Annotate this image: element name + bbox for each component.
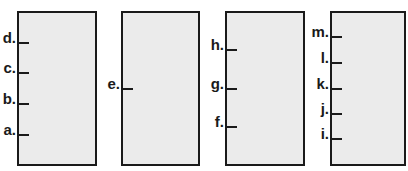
tick-label: j. (309, 101, 329, 116)
tick-mark (226, 126, 237, 128)
tick-label: b. (0, 91, 16, 106)
tick-label: k. (309, 76, 329, 91)
tick-label: h. (204, 37, 224, 52)
tick-mark (331, 36, 342, 38)
tick-mark (331, 62, 342, 64)
tick-mark (18, 134, 29, 136)
tick-mark (122, 88, 133, 90)
tick-label: d. (0, 30, 16, 45)
tick-mark (18, 42, 29, 44)
tick-label: m. (309, 24, 329, 39)
tick-label: e. (100, 76, 120, 91)
panel-3 (225, 11, 305, 166)
panel-1 (17, 11, 97, 166)
tick-mark (18, 103, 29, 105)
tick-label: l. (309, 50, 329, 65)
tick-label: c. (0, 60, 16, 75)
tick-label: i. (309, 126, 329, 141)
tick-label: a. (0, 122, 16, 137)
tick-mark (18, 72, 29, 74)
tick-label: f. (204, 114, 224, 129)
tick-mark (331, 88, 342, 90)
tick-mark (226, 49, 237, 51)
tick-label: g. (204, 76, 224, 91)
tick-mark (331, 113, 342, 115)
tick-mark (226, 88, 237, 90)
tick-mark (331, 138, 342, 140)
